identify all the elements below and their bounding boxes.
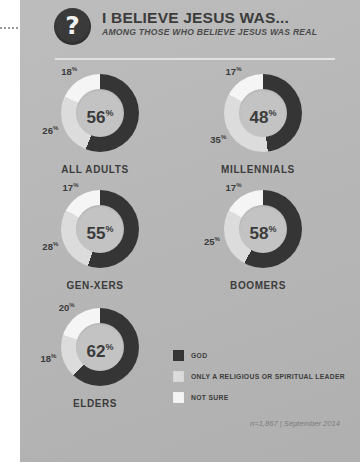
donut-wrap: 56%26%18%	[20, 74, 170, 160]
question-mark-icon: ?	[54, 8, 91, 45]
legend-item-not_sure: NOT SURE	[173, 387, 360, 408]
segment-label-leader: 25%	[204, 236, 220, 247]
donut-caption: ALL ADULTS	[20, 164, 170, 175]
segment-label-leader: 35%	[210, 134, 226, 145]
segment-label-leader: 18%	[41, 353, 57, 364]
donut-chart-boomers: 58%25%17%BOOMERS	[183, 190, 333, 291]
segment-label-leader: 26%	[42, 125, 58, 136]
donut-chart-millennials: 48%35%17%MILLENNIALS	[183, 74, 333, 175]
donut-wrap: 58%25%17%	[183, 190, 333, 276]
donut-caption: ELDERS	[20, 398, 170, 409]
segment-label-leader: 28%	[42, 241, 58, 252]
segment-label-not_sure: 17%	[226, 182, 242, 193]
donut-center-value: 58%	[239, 205, 287, 253]
legend: GODONLY A RELIGIOUS OR SPIRITUAL LEADERN…	[173, 345, 360, 408]
header: ? I BELIEVE JESUS WAS... AMONG THOSE WHO…	[20, 0, 360, 52]
left-margin	[0, 0, 20, 475]
donut-center-value: 48%	[239, 89, 287, 137]
donut-chart-elders: 62%18%20%ELDERS	[20, 308, 170, 409]
question-mark-glyph: ?	[54, 8, 91, 45]
dotted-tick-mark	[0, 27, 19, 29]
donut-caption: GEN-XERS	[20, 280, 170, 291]
donut-wrap: 48%35%17%	[183, 74, 333, 160]
segment-label-not_sure: 20%	[59, 302, 75, 313]
title-block: I BELIEVE JESUS WAS... AMONG THOSE WHO B…	[102, 9, 317, 37]
legend-item-god: GOD	[173, 345, 360, 366]
header-divider	[55, 58, 335, 60]
page-title: I BELIEVE JESUS WAS...	[102, 9, 317, 26]
donut-center-value: 56%	[76, 89, 124, 137]
segment-label-not_sure: 18%	[61, 66, 77, 77]
legend-swatch-leader	[173, 371, 184, 382]
donut-wrap: 62%18%20%	[20, 308, 170, 394]
legend-label: ONLY A RELIGIOUS OR SPIRITUAL LEADER	[191, 373, 345, 380]
page-subtitle: AMONG THOSE WHO BELIEVE JESUS WAS REAL	[102, 27, 317, 37]
donut-caption: MILLENNIALS	[183, 164, 333, 175]
legend-swatch-not_sure	[173, 392, 184, 403]
source-note: n=1,867 | September 2014	[250, 419, 340, 428]
donut-chart-all-adults: 56%26%18%ALL ADULTS	[20, 74, 170, 175]
infographic-panel: ? I BELIEVE JESUS WAS... AMONG THOSE WHO…	[20, 0, 360, 462]
legend-label: GOD	[191, 352, 207, 359]
segment-label-not_sure: 17%	[226, 66, 242, 77]
donut-center-value: 62%	[76, 323, 124, 371]
legend-label: NOT SURE	[191, 394, 229, 401]
donut-caption: BOOMERS	[183, 280, 333, 291]
donut-wrap: 55%28%17%	[20, 190, 170, 276]
donut-chart-gen-xers: 55%28%17%GEN-XERS	[20, 190, 170, 291]
bottom-margin	[20, 462, 360, 475]
segment-label-not_sure: 17%	[63, 182, 79, 193]
legend-swatch-god	[173, 350, 184, 361]
legend-item-leader: ONLY A RELIGIOUS OR SPIRITUAL LEADER	[173, 366, 360, 387]
donut-center-value: 55%	[76, 205, 124, 253]
